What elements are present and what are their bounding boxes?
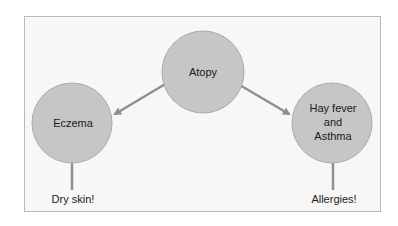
node-atopy: Atopy [162, 31, 244, 113]
node-hayfever-line-1: Hay fever [309, 102, 356, 114]
leaf-dry-skin: Dry skin! [52, 193, 95, 205]
node-hayfever-line-2: and [324, 116, 342, 128]
node-eczema-label: Eczema [53, 117, 94, 129]
atopy-diagram: Atopy Eczema Hay fever and Asthma Dry sk… [0, 0, 398, 226]
arrow-atopy-to-eczema [115, 83, 167, 114]
arrow-atopy-to-hayfever [238, 84, 289, 114]
node-hay-fever-asthma: Hay fever and Asthma [292, 83, 372, 163]
node-eczema: Eczema [32, 83, 112, 163]
node-atopy-label: Atopy [189, 66, 218, 78]
node-hayfever-line-3: Asthma [314, 130, 352, 142]
leaf-allergies: Allergies! [311, 193, 356, 205]
